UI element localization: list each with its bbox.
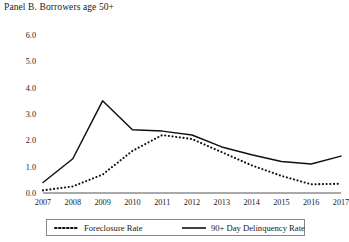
dotted-line-swatch-icon bbox=[54, 223, 80, 233]
x-axis-tick-label: 2010 bbox=[124, 198, 140, 207]
legend-label-foreclosure-rate: Foreclosure Rate bbox=[84, 223, 142, 233]
legend-item-delinquency-rate: 90+ Day Delinquency Rate bbox=[181, 220, 305, 235]
x-axis-tick-label: 2011 bbox=[154, 198, 170, 207]
series-layer bbox=[43, 101, 341, 191]
x-axis-tick-label: 2016 bbox=[303, 198, 319, 207]
y-axis-tick-label: 6.0 bbox=[26, 31, 36, 40]
chart-legend: Foreclosure Rate 90+ Day Delinquency Rat… bbox=[46, 219, 305, 236]
legend-item-foreclosure-rate: Foreclosure Rate bbox=[54, 220, 142, 235]
y-axis-tick-labels: 0.01.02.03.04.05.06.0 bbox=[26, 31, 36, 198]
legend-label-delinquency-rate: 90+ Day Delinquency Rate bbox=[211, 223, 305, 233]
x-axis-tick-label: 2008 bbox=[65, 198, 81, 207]
y-axis-tick-label: 0.0 bbox=[26, 189, 36, 198]
plot-area: 0.01.02.03.04.05.06.0 200720082009201020… bbox=[0, 24, 349, 210]
x-axis-tick-label: 2014 bbox=[243, 198, 259, 207]
x-axis-tick-label: 2007 bbox=[35, 198, 51, 207]
x-axis-tick-label: 2009 bbox=[94, 198, 110, 207]
solid-line-swatch-icon bbox=[181, 223, 207, 233]
x-axis-tick-label: 2013 bbox=[214, 198, 230, 207]
y-axis-tick-label: 1.0 bbox=[26, 163, 36, 172]
line-chart: 0.01.02.03.04.05.06.0 200720082009201020… bbox=[0, 24, 349, 210]
y-axis-tick-label: 5.0 bbox=[26, 57, 36, 66]
x-axis-tick-label: 2017 bbox=[333, 198, 349, 207]
x-axis-tick-labels: 2007200820092010201120122013201420152016… bbox=[35, 198, 349, 207]
x-axis-tick-label: 2012 bbox=[184, 198, 200, 207]
x-axis-tick-label: 2015 bbox=[273, 198, 289, 207]
y-axis-tick-label: 4.0 bbox=[26, 84, 36, 93]
y-axis-tick-label: 2.0 bbox=[26, 136, 36, 145]
series-line-90-day-delinquency-rate bbox=[43, 101, 341, 183]
y-axis-tick-label: 3.0 bbox=[26, 110, 36, 119]
figure-panel-b: Panel B. Borrowers age 50+ 0.01.02.03.04… bbox=[0, 0, 349, 242]
panel-title: Panel B. Borrowers age 50+ bbox=[4, 2, 114, 12]
